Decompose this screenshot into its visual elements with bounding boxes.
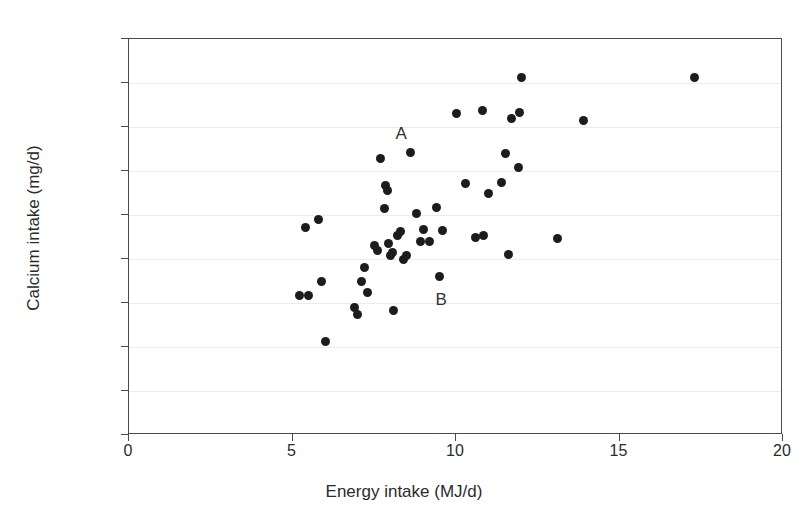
data-point [406,148,415,157]
data-point [416,237,425,246]
data-point [553,234,562,243]
x-tick-mark [619,434,620,441]
y-tick-mark [121,170,128,171]
data-point [478,106,487,115]
gridline [129,171,781,172]
y-tick-mark [121,434,128,435]
x-tick-label: 5 [287,442,296,460]
data-point [301,223,310,232]
x-axis-title: Energy intake (MJ/d) [0,482,808,502]
y-tick-mark [121,390,128,391]
data-point [432,203,441,212]
data-point [360,263,369,272]
data-point [376,154,385,163]
x-tick-mark [455,434,456,441]
x-tick-label: 15 [610,442,628,460]
point-annotation-b: B [436,290,447,310]
y-axis: 020040060080010001200140016001800 [0,0,128,530]
point-annotation-a: A [395,124,406,144]
data-point [419,225,428,234]
y-tick-mark [121,214,128,215]
data-point [690,73,699,82]
gridline [129,347,781,348]
y-tick-mark [121,258,128,259]
data-point [497,178,506,187]
data-point [452,109,461,118]
scatter-plot-figure: 020040060080010001200140016001800 AB Ene… [0,0,808,530]
data-point [357,277,366,286]
x-tick-label: 20 [773,442,791,460]
data-point [425,237,434,246]
data-point [321,337,330,346]
x-tick-label: 0 [124,442,133,460]
data-point [388,248,397,257]
y-tick-mark [121,38,128,39]
data-point [383,186,392,195]
data-point [295,291,304,300]
y-tick-mark [121,126,128,127]
data-point [515,108,524,117]
x-tick-label: 10 [446,442,464,460]
y-axis-title: Calcium intake (mg/d) [24,48,44,408]
gridline [129,83,781,84]
data-point [317,277,326,286]
y-tick-mark [121,302,128,303]
data-point [396,227,405,236]
data-point [363,288,372,297]
data-point [389,306,398,315]
data-point [514,163,523,172]
x-tick-mark [292,434,293,441]
gridline [129,127,781,128]
data-point [461,179,470,188]
data-point [314,215,323,224]
data-point [373,246,382,255]
data-point [438,226,447,235]
plot-area: AB [128,38,782,434]
data-point [435,272,444,281]
data-point [412,209,421,218]
data-point [504,250,513,259]
data-point [304,291,313,300]
y-tick-mark [121,346,128,347]
x-tick-mark [128,434,129,441]
y-tick-mark [121,82,128,83]
data-point [380,204,389,213]
data-point [579,116,588,125]
data-point [501,149,510,158]
gridline [129,259,781,260]
data-point [384,239,393,248]
data-point [479,231,488,240]
gridline [129,303,781,304]
data-point [484,189,493,198]
data-point [507,114,516,123]
x-tick-mark [782,434,783,441]
gridline [129,215,781,216]
data-point [353,310,362,319]
gridline [129,391,781,392]
data-point [517,73,526,82]
